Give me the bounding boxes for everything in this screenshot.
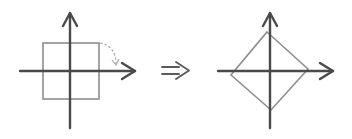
left-panel: [20, 13, 135, 128]
left-axes: [20, 13, 135, 128]
rotation-arrow-icon: [100, 43, 119, 65]
implies-arrow-icon: [162, 62, 189, 79]
right-axes: [218, 13, 333, 128]
right-panel: [218, 13, 333, 128]
